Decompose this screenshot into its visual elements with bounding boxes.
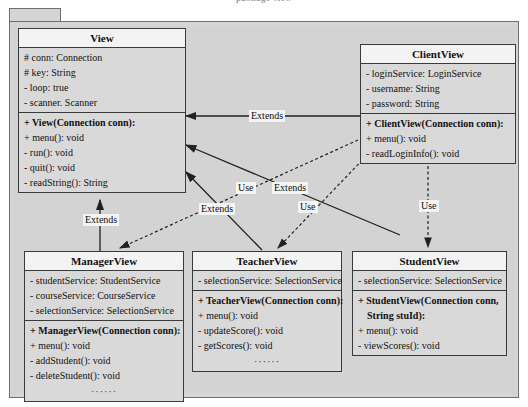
more-members-indicator: ······ [25,383,183,399]
class-attributes-view: # conn: Connection # key: String - loop:… [19,48,185,112]
operation-row: + menu(): void [361,131,515,146]
class-operations-view: + View(Connection conn): + menu(): void … [19,112,185,192]
uml-diagram-canvas: package view Extends Extends Extends [0,0,528,407]
operation-row: + menu(): void [193,308,341,323]
attribute-row: - scanner. Scanner [19,95,185,110]
operation-row: - viewScores(): void [353,338,506,353]
class-box-teacherview[interactable]: TeacherView - selectionService: Selectio… [192,251,342,372]
class-name-clientview: ClientView [361,45,515,64]
operation-row: + menu(): void [25,338,183,353]
operation-row: - updateScore(): void [193,323,341,338]
operation-row: - getScores(): void [193,338,341,353]
operation-row: - deleteStudent(): void [25,368,183,383]
attribute-row: - loop: true [19,80,185,95]
attribute-row: - loginService: LoginService [361,66,515,81]
operation-row: - readLoginInfo(): void [361,146,515,161]
class-attributes-clientview: - loginService: LoginService - username:… [361,64,515,113]
edge-label-use-teacherview: Use [298,201,318,213]
attribute-row: - username: String [361,81,515,96]
attribute-row: - selectionService: SelectionService [353,273,506,288]
operation-row: - readString(): String [19,175,185,190]
operation-row: + ManagerView(Connection conn): [25,323,183,338]
edge-label-extends-managerview: Extends [83,214,119,226]
attribute-row: - password: String [361,96,515,111]
operation-row: - run(): void [19,145,185,160]
operation-row: - quit(): void [19,160,185,175]
edge-label-use-studentview: Use [419,200,439,212]
attribute-row: # key: String [19,65,185,80]
edge-label-extends-clientview: Extends [249,110,285,122]
attribute-row: - courseService: CourseService [25,288,183,303]
class-attributes-managerview: - studentService: StudentService - cours… [25,271,183,320]
class-name-teacherview: TeacherView [193,252,341,271]
class-name-view: View [19,29,185,48]
operation-row: + StudentView(Connection conn, [353,293,506,308]
edge-label-extends-teacherview: Extends [199,203,235,215]
operation-row: + ClientView(Connection conn): [361,116,515,131]
edge-label-use-managerview: Use [236,182,256,194]
class-operations-studentview: + StudentView(Connection conn, String st… [353,290,506,355]
operation-row: + menu(): void [19,130,185,145]
operation-row: + TeacherView(Connection conn): [193,293,341,308]
attribute-row: - selectionService: SelectionService [193,273,341,288]
operation-row: - addStudent(): void [25,353,183,368]
operation-row-continued: String stuId): [353,308,506,323]
operation-row: + menu(): void [353,323,506,338]
class-box-view[interactable]: View # conn: Connection # key: String - … [18,28,186,193]
class-attributes-studentview: - selectionService: SelectionService [353,271,506,290]
class-name-studentview: StudentView [353,252,506,271]
class-name-managerview: ManagerView [25,252,183,271]
class-box-clientview[interactable]: ClientView - loginService: LoginService … [360,44,516,164]
attribute-row: # conn: Connection [19,50,185,65]
edge-label-extends-studentview: Extends [272,182,308,194]
class-operations-clientview: + ClientView(Connection conn): + menu():… [361,113,515,163]
class-box-studentview[interactable]: StudentView - selectionService: Selectio… [352,251,507,356]
class-attributes-teacherview: - selectionService: SelectionService [193,271,341,290]
attribute-row: - studentService: StudentService [25,273,183,288]
edge-clientview-use-teacherview [278,152,370,248]
class-operations-managerview: + ManagerView(Connection conn): + menu()… [25,320,183,401]
more-members-indicator: ······ [193,353,341,369]
attribute-row: - selectionService: SelectionService [25,303,183,318]
class-box-managerview[interactable]: ManagerView - studentService: StudentSer… [24,251,184,402]
class-operations-teacherview: + TeacherView(Connection conn): + menu()… [193,290,341,371]
operation-row: + View(Connection conn): [19,115,185,130]
